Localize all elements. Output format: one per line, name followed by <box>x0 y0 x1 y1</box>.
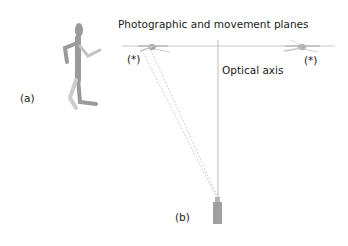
right-marker-icon <box>284 40 320 52</box>
sight-line-2 <box>151 50 218 198</box>
panel-a-label: (a) <box>20 92 35 104</box>
camera-icon <box>213 197 222 224</box>
diagram-canvas: Photographic and movement planes Optical… <box>0 0 348 246</box>
optical-axis-label: Optical axis <box>222 64 283 76</box>
planes-label: Photographic and movement planes <box>118 18 309 30</box>
marker-left-label: (*) <box>127 53 140 65</box>
marker-right-label: (*) <box>304 54 317 66</box>
left-marker-icon <box>138 44 170 52</box>
diagram-graphics <box>0 0 348 246</box>
panel-b-label: (b) <box>175 211 190 223</box>
sight-line-1 <box>142 50 217 198</box>
walking-figure-icon <box>65 23 100 108</box>
